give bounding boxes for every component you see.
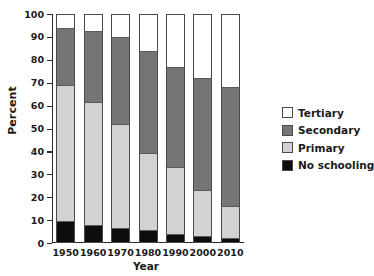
bar-segment-primary[interactable] [139,153,158,231]
y-axis-tick-label: 40 [31,147,44,157]
bar-1960[interactable] [84,14,103,243]
bar-segment-primary[interactable] [111,124,130,228]
y-axis-tick: 50 [47,129,52,130]
legend-swatch-icon [282,160,293,171]
bar-segment-secondary[interactable] [84,31,103,102]
legend-item-secondary[interactable]: Secondary [282,122,370,140]
y-axis-tick: 100 [47,14,52,15]
bar-segment-secondary[interactable] [193,78,212,190]
bar-segment-no-schooling[interactable] [166,234,185,243]
y-axis-tick-label: 80 [31,56,44,66]
y-axis-tick: 60 [47,106,52,107]
legend-item-no-schooling[interactable]: No schooling [282,157,370,175]
bar-segment-tertiary[interactable] [221,14,240,87]
y-axis-tick: 90 [47,37,52,38]
y-axis-line [52,14,53,243]
legend-item-tertiary[interactable]: Tertiary [282,104,370,122]
y-axis-tick-label: 100 [24,10,44,20]
y-axis-tick-label: 70 [31,79,44,89]
bar-segment-tertiary[interactable] [56,14,75,28]
bar-segment-no-schooling[interactable] [111,228,130,243]
bar-1950[interactable] [56,14,75,243]
bar-segment-no-schooling[interactable] [139,230,158,243]
bar-2000[interactable] [193,14,212,243]
plot-area: 0102030405060708090100 19501960197019801… [52,14,244,243]
legend-swatch-icon [282,142,293,153]
bar-segment-tertiary[interactable] [139,14,158,51]
y-axis-tick: 10 [47,220,52,221]
bar-segment-primary[interactable] [56,85,75,221]
bar-1990[interactable] [166,14,185,243]
y-axis-tick: 70 [47,83,52,84]
bar-segment-secondary[interactable] [111,37,130,124]
y-axis-tick-label: 90 [31,33,44,43]
legend-item-label: Primary [298,143,345,154]
bar-segment-tertiary[interactable] [166,14,185,67]
y-axis-tick-label: 0 [37,239,44,249]
bar-segment-secondary[interactable] [139,51,158,153]
bar-segment-primary[interactable] [84,102,103,225]
y-axis-tick: 20 [47,197,52,198]
x-axis-tick-label: 2010 [213,247,247,258]
bar-2010[interactable] [221,14,240,243]
y-axis-tick-label: 50 [31,124,44,134]
bar-segment-secondary[interactable] [221,87,240,206]
legend-swatch-icon [282,125,293,136]
bar-segment-tertiary[interactable] [111,14,130,37]
legend-item-label: Secondary [298,125,360,136]
y-axis-tick: 30 [47,174,52,175]
y-axis-tick: 40 [47,151,52,152]
legend-item-primary[interactable]: Primary [282,139,370,157]
bar-1980[interactable] [139,14,158,243]
legend-item-label: Tertiary [298,108,344,119]
y-axis-tick-label: 20 [31,193,44,203]
bar-segment-no-schooling[interactable] [56,221,75,243]
legend-item-label: No schooling [298,160,374,171]
y-axis-tick-label: 10 [31,216,44,226]
y-axis-tick-label: 30 [31,170,44,180]
y-axis-tick-label: 60 [31,101,44,111]
x-axis-title: Year [48,260,244,272]
bar-1970[interactable] [111,14,130,243]
bar-segment-no-schooling[interactable] [193,236,212,243]
bar-segment-primary[interactable] [166,167,185,233]
bar-segment-no-schooling[interactable] [221,238,240,243]
chart-legend: TertiarySecondaryPrimaryNo schooling [282,104,370,174]
bar-segment-tertiary[interactable] [84,14,103,31]
legend-swatch-icon [282,107,293,118]
y-axis-title: Percent [6,71,19,151]
y-axis-tick: 80 [47,60,52,61]
y-axis-tick: 0 [47,243,52,244]
bar-segment-primary[interactable] [221,206,240,238]
bar-segment-secondary[interactable] [56,28,75,85]
bar-segment-secondary[interactable] [166,67,185,168]
bar-segment-no-schooling[interactable] [84,225,103,243]
bar-segment-primary[interactable] [193,190,212,236]
bar-segment-tertiary[interactable] [193,14,212,78]
